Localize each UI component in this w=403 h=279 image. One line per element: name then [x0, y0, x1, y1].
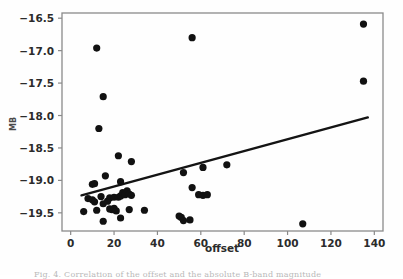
data-point	[360, 20, 367, 27]
regression-line	[82, 117, 368, 195]
data-point	[97, 193, 104, 200]
data-point	[100, 93, 107, 100]
data-point	[91, 180, 98, 187]
data-point	[186, 216, 193, 223]
x-tick-label: 140	[363, 237, 385, 249]
data-point	[199, 164, 206, 171]
y-tick-label: −19.0	[19, 174, 54, 186]
data-point	[95, 125, 102, 132]
data-point	[180, 169, 187, 176]
x-axis-title: offset	[205, 242, 239, 254]
y-tick-label: −16.5	[19, 12, 54, 24]
data-points	[80, 20, 367, 227]
data-point	[128, 192, 135, 199]
data-point	[128, 158, 135, 165]
data-point	[223, 161, 230, 168]
x-tick-label: 40	[150, 237, 165, 249]
data-point	[117, 214, 124, 221]
data-point	[204, 191, 211, 198]
data-point	[141, 207, 148, 214]
data-point	[80, 208, 87, 215]
x-tick-label: 100	[277, 237, 299, 249]
data-point	[180, 217, 187, 224]
data-point	[126, 206, 133, 213]
y-tick-label: −19.5	[19, 207, 54, 219]
data-point	[189, 34, 196, 41]
y-tick-label: −17.0	[19, 45, 54, 57]
svg-text:MB: MB	[9, 117, 18, 131]
data-point	[93, 207, 100, 214]
data-point	[360, 78, 367, 85]
y-tick-label: −18.0	[19, 110, 54, 122]
y-axis-title: MB	[9, 117, 18, 131]
data-point	[113, 207, 120, 214]
figure-caption: Fig. 4. Correlation of the offset and th…	[34, 270, 374, 279]
data-point	[93, 44, 100, 51]
x-tick-label: 0	[67, 237, 74, 249]
data-point	[91, 198, 98, 205]
data-point	[100, 218, 107, 225]
x-tick-label: 120	[320, 237, 342, 249]
data-point	[115, 152, 122, 159]
data-point	[117, 178, 124, 185]
data-point	[299, 220, 306, 227]
x-tick-label: 20	[107, 237, 122, 249]
data-point	[102, 172, 109, 179]
y-tick-label: −18.5	[19, 142, 54, 154]
y-axis-ticks: −16.5−17.0−17.5−18.0−18.5−19.0−19.5	[19, 12, 62, 219]
y-tick-label: −17.5	[19, 77, 54, 89]
data-point	[189, 184, 196, 191]
x-tick-label: 80	[237, 237, 252, 249]
